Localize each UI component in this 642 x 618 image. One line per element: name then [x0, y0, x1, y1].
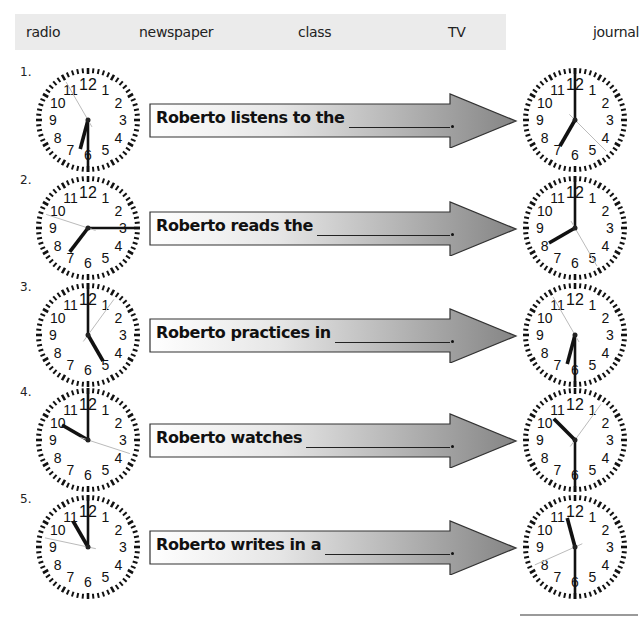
svg-text:1: 1 [589, 509, 597, 525]
svg-text:5: 5 [102, 250, 110, 266]
svg-text:9: 9 [49, 112, 57, 128]
svg-text:2: 2 [114, 522, 122, 538]
svg-text:6: 6 [84, 362, 92, 378]
svg-text:7: 7 [554, 569, 562, 585]
svg-text:2: 2 [114, 203, 122, 219]
end-clock-icon: 123456789101112 [519, 491, 629, 601]
end-clock-icon: 123456789101112 [519, 279, 629, 389]
svg-text:3: 3 [119, 112, 127, 128]
svg-text:1: 1 [102, 402, 110, 418]
svg-text:4: 4 [601, 238, 609, 254]
svg-text:7: 7 [67, 462, 75, 478]
svg-text:9: 9 [536, 327, 544, 343]
svg-text:2: 2 [114, 310, 122, 326]
sentence-prompt: Roberto reads the [156, 216, 313, 235]
svg-text:2: 2 [601, 203, 609, 219]
sentence-prompt: Roberto writes in a [156, 535, 321, 554]
end-clock-icon: 123456789101112 [519, 384, 629, 494]
word-bank-item-radio: radio [26, 24, 60, 40]
svg-text:6: 6 [84, 574, 92, 590]
exercise-number: 5. [20, 492, 31, 506]
exercise-number: 3. [20, 280, 31, 294]
svg-text:7: 7 [554, 250, 562, 266]
svg-text:4: 4 [601, 450, 609, 466]
svg-text:12: 12 [566, 503, 584, 520]
svg-text:4: 4 [601, 130, 609, 146]
period [451, 552, 454, 555]
svg-text:11: 11 [63, 190, 78, 206]
svg-text:8: 8 [541, 450, 549, 466]
sentence-prompt: Roberto listens to the [156, 108, 345, 127]
svg-text:5: 5 [102, 569, 110, 585]
svg-text:9: 9 [536, 432, 544, 448]
svg-text:4: 4 [114, 130, 122, 146]
svg-text:5: 5 [589, 462, 597, 478]
svg-text:9: 9 [49, 327, 57, 343]
svg-text:7: 7 [67, 569, 75, 585]
period [451, 340, 454, 343]
svg-text:9: 9 [536, 539, 544, 555]
svg-text:5: 5 [589, 142, 597, 158]
svg-text:1: 1 [589, 297, 597, 313]
svg-text:3: 3 [606, 112, 614, 128]
svg-text:8: 8 [541, 238, 549, 254]
svg-text:9: 9 [536, 112, 544, 128]
svg-text:3: 3 [606, 220, 614, 236]
svg-text:5: 5 [102, 142, 110, 158]
svg-text:6: 6 [84, 255, 92, 271]
sentence-prompt: Roberto practices in [156, 323, 331, 342]
word-bank-item-class: class [298, 24, 331, 40]
svg-text:4: 4 [114, 238, 122, 254]
start-clock-icon: 123456789101112 [32, 384, 142, 494]
svg-text:6: 6 [571, 255, 579, 271]
svg-text:8: 8 [54, 130, 62, 146]
word-bank-item-newspaper: newspaper [139, 24, 213, 40]
end-clock-icon: 123456789101112 [519, 64, 629, 174]
answer-blank[interactable] [349, 127, 451, 128]
svg-text:1: 1 [102, 82, 110, 98]
svg-text:11: 11 [550, 82, 565, 98]
svg-text:11: 11 [550, 509, 565, 525]
svg-text:11: 11 [550, 190, 565, 206]
svg-text:5: 5 [589, 357, 597, 373]
svg-text:9: 9 [49, 539, 57, 555]
svg-text:4: 4 [114, 557, 122, 573]
svg-text:2: 2 [114, 95, 122, 111]
svg-text:2: 2 [601, 95, 609, 111]
svg-text:4: 4 [114, 450, 122, 466]
svg-text:11: 11 [63, 297, 78, 313]
answer-blank[interactable] [335, 342, 450, 343]
svg-text:3: 3 [119, 539, 127, 555]
bottom-rule [520, 614, 638, 616]
end-clock-icon: 123456789101112 [519, 172, 629, 282]
svg-text:3: 3 [119, 327, 127, 343]
start-clock-icon: 123456789101112 [32, 491, 142, 601]
period [451, 445, 454, 448]
exercise-number: 4. [20, 385, 31, 399]
svg-text:11: 11 [63, 402, 78, 418]
svg-text:8: 8 [54, 345, 62, 361]
svg-text:9: 9 [49, 220, 57, 236]
svg-text:3: 3 [606, 327, 614, 343]
svg-text:3: 3 [606, 432, 614, 448]
start-clock-icon: 123456789101112 [32, 64, 142, 174]
svg-text:8: 8 [54, 450, 62, 466]
svg-text:6: 6 [571, 147, 579, 163]
svg-text:2: 2 [601, 522, 609, 538]
svg-text:7: 7 [67, 250, 75, 266]
start-clock-icon: 123456789101112 [32, 172, 142, 282]
svg-text:1: 1 [102, 190, 110, 206]
sentence-prompt: Roberto watches [156, 428, 302, 447]
period [451, 233, 454, 236]
svg-text:7: 7 [554, 357, 562, 373]
answer-blank[interactable] [317, 235, 450, 236]
answer-blank[interactable] [325, 554, 450, 555]
svg-text:8: 8 [54, 238, 62, 254]
svg-text:5: 5 [589, 569, 597, 585]
svg-text:9: 9 [49, 432, 57, 448]
svg-text:12: 12 [566, 291, 584, 308]
svg-text:4: 4 [601, 557, 609, 573]
svg-text:3: 3 [119, 432, 127, 448]
answer-blank[interactable] [306, 447, 450, 448]
svg-text:2: 2 [601, 415, 609, 431]
